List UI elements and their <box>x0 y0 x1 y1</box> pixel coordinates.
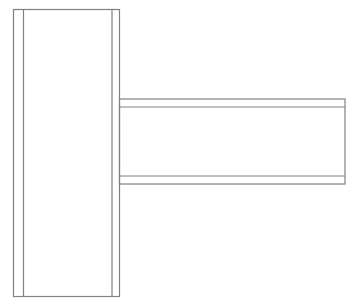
column-outline <box>14 10 120 297</box>
connection-drawing <box>0 0 355 304</box>
beam-outline <box>120 99 346 184</box>
